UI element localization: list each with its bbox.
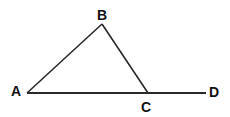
label-c: C xyxy=(141,99,151,115)
triangle-diagram: A B C D xyxy=(0,0,230,117)
segment-bc xyxy=(102,24,148,93)
label-d: D xyxy=(209,84,219,100)
label-a: A xyxy=(11,83,21,99)
segment-ab xyxy=(27,24,102,93)
label-b: B xyxy=(97,7,107,23)
